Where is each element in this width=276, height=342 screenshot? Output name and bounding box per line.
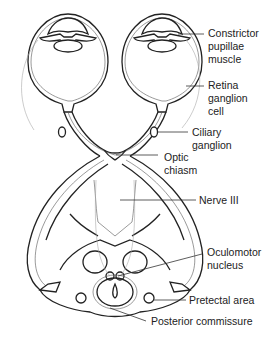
right-ciliary-ganglion [151, 127, 158, 137]
pupillary-reflex-diagram: Constrictor pupillae muscle Retina gangl… [0, 0, 276, 342]
right-eye [122, 14, 202, 128]
left-ciliary-ganglion [59, 127, 66, 137]
label-oculomotor-nucleus: Oculomotor nucleus [207, 246, 264, 271]
label-ciliary-ganglion: Ciliary ganglion [192, 126, 232, 151]
midbrain-section [40, 180, 190, 317]
label-retina-ganglion-cell: Retina ganglion cell [208, 79, 251, 117]
label-posterior-commissure: Posterior commissure [151, 315, 253, 327]
label-pretectal-area: Pretectal area [189, 294, 255, 306]
label-optic-chiasm: Optic chiasm [164, 151, 198, 176]
label-nerve-iii: Nerve III [199, 194, 239, 206]
labels: Constrictor pupillae muscle Retina gangl… [151, 27, 264, 327]
optic-pathway [27, 112, 203, 290]
label-constrictor-pupillae: Constrictor pupillae muscle [208, 27, 262, 65]
